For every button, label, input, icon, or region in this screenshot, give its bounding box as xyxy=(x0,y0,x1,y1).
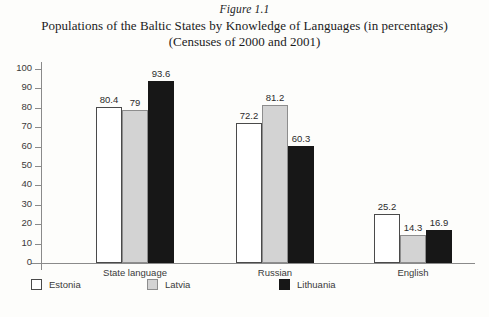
bar-group: 25.214.316.9English xyxy=(374,69,452,263)
y-axis-tick-label: 20 xyxy=(21,217,32,228)
y-axis-tick-mark xyxy=(35,244,41,245)
legend-label-estonia: Estonia xyxy=(49,279,81,290)
bar-estonia-english[interactable]: 25.2 xyxy=(374,214,400,263)
figure-title-line-2: (Censuses of 2000 and 2001) xyxy=(0,34,489,50)
y-axis-tick-mark xyxy=(35,166,41,167)
bar-value-label: 81.2 xyxy=(266,92,285,103)
bar-value-label: 79 xyxy=(130,97,141,108)
figure-header: Figure 1.1 Populations of the Baltic Sta… xyxy=(0,0,489,50)
y-axis-tick-label: 0 xyxy=(27,256,32,267)
bar-value-label: 72.2 xyxy=(240,110,259,121)
bar-estonia-state-language[interactable]: 80.4 xyxy=(96,107,122,263)
bar-group-bars: 72.281.260.3 xyxy=(236,69,314,263)
bar-lithuania-english[interactable]: 16.9 xyxy=(426,230,452,263)
y-axis-tick-label: 40 xyxy=(21,178,32,189)
legend-label-lithuania: Lithuania xyxy=(297,279,336,290)
y-axis-tick-mark xyxy=(35,88,41,89)
legend-swatch-latvia xyxy=(147,279,158,290)
legend-item-lithuania[interactable]: Lithuania xyxy=(279,279,336,290)
y-axis-tick-mark xyxy=(35,205,41,206)
bar-latvia-russian[interactable]: 81.2 xyxy=(262,105,288,263)
bar-latvia-state-language[interactable]: 79 xyxy=(122,110,148,263)
y-axis-tick-mark xyxy=(35,127,41,128)
bar-value-label: 93.6 xyxy=(152,68,171,79)
y-axis-line xyxy=(41,62,42,270)
x-axis-category-label: English xyxy=(397,267,428,278)
y-axis-tick-mark xyxy=(35,108,41,109)
y-axis-tick-label: 90 xyxy=(21,81,32,92)
bar-value-label: 60.3 xyxy=(292,133,311,144)
y-axis-tick-label: 70 xyxy=(21,120,32,131)
y-axis-tick-label: 80 xyxy=(21,101,32,112)
legend-item-estonia[interactable]: Estonia xyxy=(31,279,81,290)
legend-swatch-estonia xyxy=(31,279,42,290)
y-axis-tick-mark xyxy=(35,224,41,225)
legend-label-latvia: Latvia xyxy=(165,279,190,290)
y-axis-tick-mark xyxy=(35,147,41,148)
bar-group-bars: 80.47993.6 xyxy=(96,69,174,263)
bar-value-label: 80.4 xyxy=(100,94,119,105)
y-axis-tick-label: 10 xyxy=(21,237,32,248)
bar-value-label: 16.9 xyxy=(430,217,449,228)
figure-number: Figure 1.1 xyxy=(0,0,489,17)
chart-plot-area: 0102030405060708090100 80.47993.6State l… xyxy=(41,66,475,264)
y-axis-tick-label: 30 xyxy=(21,198,32,209)
bar-lithuania-russian[interactable]: 60.3 xyxy=(288,146,314,263)
bar-group: 72.281.260.3Russian xyxy=(236,69,314,263)
bar-estonia-russian[interactable]: 72.2 xyxy=(236,123,262,263)
x-axis-category-label: State language xyxy=(103,267,167,278)
y-axis-tick-mark xyxy=(35,185,41,186)
y-axis-tick-mark xyxy=(35,69,41,70)
legend-swatch-lithuania xyxy=(279,279,290,290)
y-axis-tick-label: 60 xyxy=(21,140,32,151)
legend-item-latvia[interactable]: Latvia xyxy=(147,279,190,290)
x-axis-line xyxy=(31,263,475,264)
bar-group: 80.47993.6State language xyxy=(96,69,174,263)
x-axis-category-label: Russian xyxy=(258,267,292,278)
bar-group-bars: 25.214.316.9 xyxy=(374,69,452,263)
bar-lithuania-state-language[interactable]: 93.6 xyxy=(148,81,174,263)
figure-title-line-1: Populations of the Baltic States by Know… xyxy=(0,17,489,34)
y-axis-tick-mark xyxy=(35,263,41,264)
bar-value-label: 25.2 xyxy=(378,201,397,212)
y-axis-tick-label: 100 xyxy=(16,62,32,73)
y-axis-tick-label: 50 xyxy=(21,159,32,170)
bar-latvia-english[interactable]: 14.3 xyxy=(400,235,426,263)
bar-value-label: 14.3 xyxy=(404,222,423,233)
